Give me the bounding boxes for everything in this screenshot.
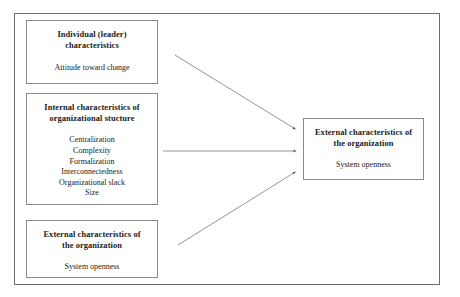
node-items: Attitude toward change bbox=[54, 63, 129, 74]
node-external-characteristics-source: External characteristics of the organiza… bbox=[26, 220, 158, 278]
diagram-root: Individual (leader) characteristics Atti… bbox=[0, 0, 460, 297]
node-title: Internal characteristics of organization… bbox=[44, 102, 139, 124]
node-title: External characteristics of the organiza… bbox=[315, 127, 412, 149]
node-items: System openness bbox=[336, 160, 391, 171]
node-title: External characteristics of the organiza… bbox=[43, 229, 140, 251]
node-items: Centralization Complexity Formalization … bbox=[59, 135, 125, 199]
node-external-characteristics-outcome: External characteristics of the organiza… bbox=[303, 118, 424, 180]
node-internal-characteristics: Internal characteristics of organization… bbox=[26, 93, 158, 205]
node-title: Individual (leader) characteristics bbox=[57, 29, 126, 51]
node-items: System openness bbox=[65, 262, 120, 273]
node-individual-leader-characteristics: Individual (leader) characteristics Atti… bbox=[26, 20, 158, 84]
